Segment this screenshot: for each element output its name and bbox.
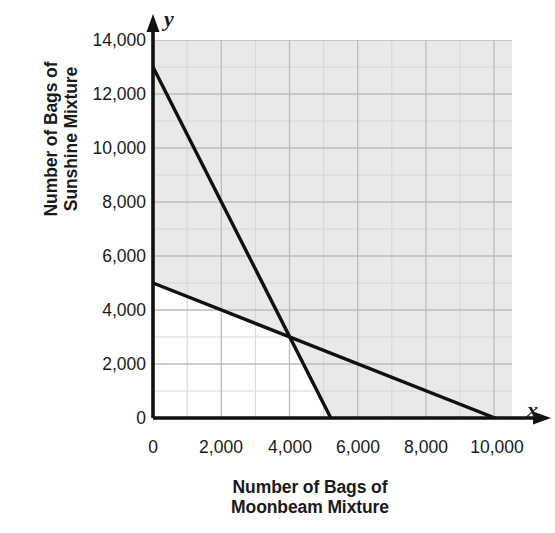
x-tick-label-6000: 6,000 (336, 437, 380, 458)
x-axis-title: Number of Bags of Moonbeam Mixture (100, 478, 520, 518)
x-tick-label-2000: 2,000 (199, 437, 243, 458)
x-tick-label-0: 0 (148, 437, 158, 458)
chart-container: Number of Bags of Sunshine Mixture 14,00… (0, 0, 555, 533)
x-axis-tick-labels: 0 2,000 4,000 6,000 8,000 10,000 (0, 0, 555, 533)
x-axis-title-line-2: Moonbeam Mixture (100, 498, 520, 518)
x-tick-label-4000: 4,000 (268, 437, 312, 458)
x-tick-label-10000: 10,000 (470, 437, 524, 458)
x-tick-label-8000: 8,000 (404, 437, 448, 458)
x-axis-title-line-1: Number of Bags of (100, 478, 520, 498)
